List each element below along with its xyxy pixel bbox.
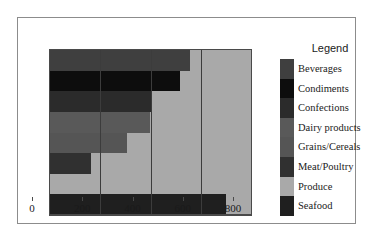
- legend-label-beverages: Beverages: [298, 59, 361, 79]
- plot-area: [49, 49, 252, 216]
- legend: Legend BeveragesCondimentsConfectionsDai…: [268, 42, 372, 222]
- tick-mark-200: [82, 197, 83, 201]
- legend-label-confections: Confections: [298, 98, 361, 118]
- tick-mark-0: [32, 197, 33, 201]
- legend-swatch-dairy-products: [280, 118, 294, 138]
- legend-label-column: BeveragesCondimentsConfectionsDairy prod…: [298, 59, 361, 216]
- legend-swatch-seafood: [280, 196, 294, 216]
- legend-label-seafood: Seafood: [298, 196, 361, 216]
- tick-mark-800: [233, 197, 234, 201]
- bar-grains-cereals: [50, 133, 127, 154]
- legend-label-condiments: Condiments: [298, 79, 361, 99]
- legend-title: Legend: [290, 42, 370, 54]
- legend-swatch-column: [280, 59, 294, 216]
- bar-produce: [50, 174, 70, 195]
- legend-swatch-produce: [280, 177, 294, 197]
- bar-condiments: [50, 71, 180, 92]
- legend-swatch-beverages: [280, 59, 294, 79]
- legend-swatch-grains-cereals: [280, 137, 294, 157]
- legend-label-produce: Produce: [298, 177, 361, 197]
- legend-label-dairy-products: Dairy products: [298, 118, 361, 138]
- gridline-200: [100, 50, 101, 215]
- bar-beverages: [50, 50, 190, 71]
- legend-swatch-confections: [280, 98, 294, 118]
- tick-mark-400: [133, 197, 134, 201]
- chart-screenshot: 0200400600800 Legend BeveragesCondiments…: [0, 0, 374, 245]
- legend-label-meat-poultry: Meat/Poultry: [298, 157, 361, 177]
- bar-meat-poultry: [50, 153, 91, 174]
- tick-label-600: 600: [163, 202, 203, 215]
- gridline-400: [151, 50, 152, 215]
- legend-swatch-condiments: [280, 79, 294, 99]
- legend-label-grains-cereals: Grains/Cereals: [298, 137, 361, 157]
- gridline-600: [201, 50, 202, 215]
- tick-label-400: 400: [113, 202, 153, 215]
- legend-swatch-meat-poultry: [280, 157, 294, 177]
- tick-mark-600: [183, 197, 184, 201]
- tick-label-800: 800: [213, 202, 253, 215]
- tick-label-200: 200: [62, 202, 102, 215]
- tick-label-0: 0: [12, 202, 52, 215]
- chart-frame: 0200400600800 Legend BeveragesCondiments…: [17, 17, 356, 224]
